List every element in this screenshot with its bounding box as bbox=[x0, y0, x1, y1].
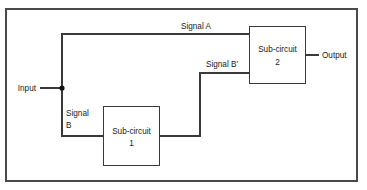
block-sub-circuit-2-label-line2: 2 bbox=[275, 58, 280, 67]
output-label: Output bbox=[322, 51, 347, 60]
signal-b-label-line1: Signal bbox=[66, 109, 89, 118]
signal-b-label-line2: B bbox=[66, 121, 72, 130]
signal-b-prime-label: Signal B' bbox=[206, 60, 238, 69]
block-sub-circuit-2-label-line1: Sub-circuit bbox=[258, 45, 297, 54]
block-sub-circuit-1-label-line2: 1 bbox=[129, 139, 134, 148]
block-sub-circuit-1-label-line1: Sub-circuit bbox=[112, 127, 151, 136]
input-label: Input bbox=[18, 84, 37, 93]
signal-a-label: Signal A bbox=[181, 22, 212, 31]
block-sub-circuit-1[interactable] bbox=[104, 107, 160, 166]
block-diagram: Sub-circuit 1 Sub-circuit 2 Input Output… bbox=[0, 0, 367, 190]
signal-b-prime-wire bbox=[160, 73, 249, 136]
diagram-canvas: Sub-circuit 1 Sub-circuit 2 Input Output… bbox=[0, 0, 367, 190]
junction-dot bbox=[59, 85, 64, 90]
block-sub-circuit-2[interactable] bbox=[250, 27, 306, 84]
